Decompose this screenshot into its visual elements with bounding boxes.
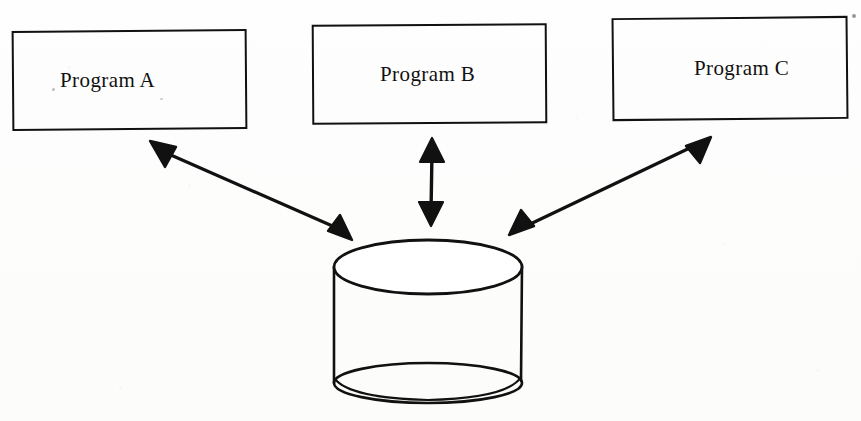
scan-speck (52, 88, 55, 91)
connector-b[interactable] (419, 138, 444, 226)
connector-c-arrowhead-database (509, 210, 534, 235)
connector-c-shaft (524, 145, 696, 227)
connector-a-shaft (164, 152, 337, 228)
database-top-ellipse (334, 240, 522, 294)
connector-b-arrowhead-database (419, 202, 443, 226)
connector-a[interactable] (150, 141, 352, 240)
database-right-wall (521, 265, 522, 381)
connector-c[interactable] (509, 137, 711, 235)
scan-speck (160, 98, 163, 100)
diagram-canvas: Program A Program B Program C (0, 0, 861, 421)
shared-database[interactable] (334, 240, 522, 403)
connector-a-arrowhead-program (150, 141, 176, 167)
diagram-vector-layer (0, 0, 861, 421)
database-bottom-ellipse (334, 363, 522, 403)
connector-b-arrowhead-program (420, 138, 444, 162)
scan-speck (852, 14, 856, 18)
connector-c-arrowhead-program (686, 137, 711, 163)
connector-a-arrowhead-database (328, 215, 352, 240)
